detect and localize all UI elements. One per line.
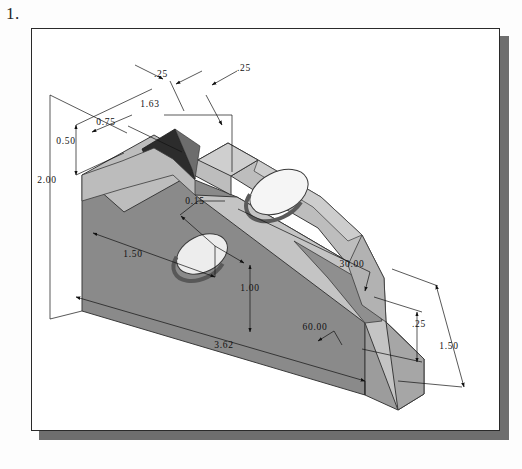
lead-200-top <box>50 95 127 133</box>
dim-label-163: 1.63 <box>140 99 159 109</box>
ext-150-right-top <box>392 269 438 286</box>
dim-label-top-right-25: .25 <box>237 63 251 73</box>
isometric-drawing: .25 .25 1.63 0.75 0.50 2.00 0.15 1.50 1.… <box>32 29 499 430</box>
solid-model <box>82 129 424 410</box>
figure-page: 1. <box>0 0 522 469</box>
dim-label-150-right: 1.50 <box>439 341 458 351</box>
lead-25-left-b <box>176 71 202 84</box>
lead-163-arrow <box>206 95 222 125</box>
page-title: 1. <box>6 4 20 24</box>
dim-label-top-left-25: .25 <box>154 69 168 79</box>
dim-label-075: 0.75 <box>96 117 115 127</box>
dim-label-6000: 60.00 <box>303 322 328 332</box>
lead-25-right <box>212 71 237 85</box>
lead-200-bot <box>50 311 82 319</box>
dim-150-right-line <box>436 285 464 387</box>
dim-label-100: 1.00 <box>240 283 259 293</box>
dim-label-015: 0.15 <box>185 196 204 206</box>
figure-frame: .25 .25 1.63 0.75 0.50 2.00 0.15 1.50 1.… <box>31 28 500 431</box>
dim-label-200: 2.00 <box>37 175 56 185</box>
dim-label-050: 0.50 <box>56 136 75 146</box>
dim-label-right-25: .25 <box>412 319 426 329</box>
dim-label-150-left: 1.50 <box>123 249 142 259</box>
dim-label-3000: 30.00 <box>340 259 365 269</box>
ext-25-left <box>170 81 184 111</box>
dim-label-362: 3.62 <box>214 340 233 350</box>
